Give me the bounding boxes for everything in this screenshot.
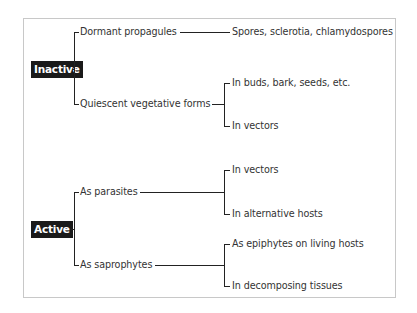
- connector-line: [212, 104, 224, 105]
- bracket-line: [224, 244, 225, 287]
- diagram-frame: [23, 18, 396, 298]
- leaf-spores: Spores, sclerotia, chlamydospores: [232, 26, 395, 38]
- connector-line: [74, 32, 79, 33]
- category-active: Active: [31, 221, 73, 238]
- leaf-buds-bark-seeds: In buds, bark, seeds, etc.: [232, 77, 352, 89]
- leaf-epiphytes: As epiphytes on living hosts: [232, 238, 366, 250]
- leaf-alternative-hosts: In alternative hosts: [232, 208, 325, 220]
- connector-line: [224, 170, 230, 171]
- bracket-line: [74, 192, 75, 266]
- connector-line: [224, 83, 230, 84]
- connector-line: [224, 126, 230, 127]
- leaf-decomposing-tissues: In decomposing tissues: [232, 280, 345, 292]
- connector-line: [140, 192, 224, 193]
- connector-line: [224, 286, 230, 287]
- connector-line: [224, 244, 230, 245]
- connector-line: [74, 104, 79, 105]
- leaf-in-vectors-active: In vectors: [232, 164, 280, 176]
- branch-as-parasites: As parasites: [80, 186, 140, 198]
- bracket-line: [224, 83, 225, 127]
- branch-quiescent-forms: Quiescent vegetative forms: [80, 98, 212, 110]
- connector-line: [180, 32, 230, 33]
- connector-line: [224, 214, 230, 215]
- connector-line: [155, 265, 224, 266]
- branch-dormant-propagules: Dormant propagules: [80, 26, 179, 38]
- bracket-line: [74, 32, 75, 105]
- connector-line: [74, 265, 79, 266]
- bracket-line: [224, 170, 225, 215]
- connector-line: [74, 192, 79, 193]
- branch-as-saprophytes: As saprophytes: [80, 259, 154, 271]
- leaf-in-vectors: In vectors: [232, 120, 280, 132]
